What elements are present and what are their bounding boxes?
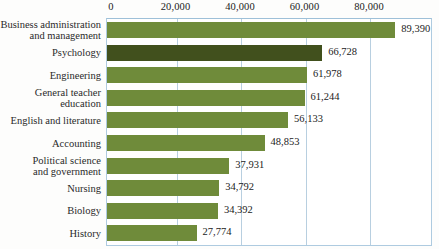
bar-row: Nursing34,792 — [0, 177, 439, 200]
bar-row: Political science and government37,931 — [0, 155, 439, 178]
category-label: Engineering — [0, 70, 101, 81]
category-label: Accounting — [0, 138, 101, 149]
bar — [107, 158, 229, 174]
bar — [107, 45, 322, 61]
bar-rows: Business administration and management89… — [0, 18, 439, 246]
bar — [107, 112, 288, 128]
bar-value-label: 66,728 — [328, 46, 357, 57]
bar-value-label: 61,244 — [311, 91, 340, 102]
bar-value-label: 89,390 — [401, 23, 430, 34]
x-tick-label: 80,000 — [354, 1, 383, 12]
bar — [107, 203, 218, 219]
category-label: Nursing — [0, 183, 101, 194]
x-tick-label: 60,000 — [290, 1, 319, 12]
x-tick-label: 20,000 — [161, 1, 190, 12]
bar — [107, 135, 265, 151]
bar-value-label: 27,774 — [203, 226, 232, 237]
category-label: General teacher education — [0, 87, 101, 109]
bar-value-label: 37,931 — [235, 159, 264, 170]
bar-value-label: 61,978 — [313, 68, 342, 79]
x-axis-tick-labels: 020,00040,00060,00080,000 — [0, 0, 439, 18]
bar — [107, 90, 305, 106]
bar — [107, 180, 219, 196]
bar-row: Business administration and management89… — [0, 19, 439, 42]
bar — [107, 67, 307, 83]
bar — [107, 22, 395, 38]
x-tick-label: 0 — [108, 1, 113, 12]
bar-value-label: 56,133 — [294, 113, 323, 124]
category-label: Political science and government — [0, 155, 101, 177]
bar-row: Engineering61,978 — [0, 64, 439, 87]
category-label: English and literature — [0, 115, 101, 126]
bar-chart: 020,00040,00060,00080,000 Business admin… — [0, 0, 439, 249]
category-label: Biology — [0, 205, 101, 216]
bar-row: History27,774 — [0, 222, 439, 245]
bar-row: Psychology66,728 — [0, 42, 439, 65]
bar-row: General teacher education61,244 — [0, 87, 439, 110]
bar — [107, 225, 197, 241]
bar-value-label: 34,792 — [225, 181, 254, 192]
category-label: History — [0, 228, 101, 239]
bar-row: English and literature56,133 — [0, 109, 439, 132]
bar-value-label: 48,853 — [271, 136, 300, 147]
category-label: Psychology — [0, 47, 101, 58]
bar-row: Biology34,392 — [0, 200, 439, 223]
category-label: Business administration and management — [0, 19, 101, 41]
x-tick-label: 40,000 — [225, 1, 254, 12]
bar-value-label: 34,392 — [224, 204, 253, 215]
bar-row: Accounting48,853 — [0, 132, 439, 155]
